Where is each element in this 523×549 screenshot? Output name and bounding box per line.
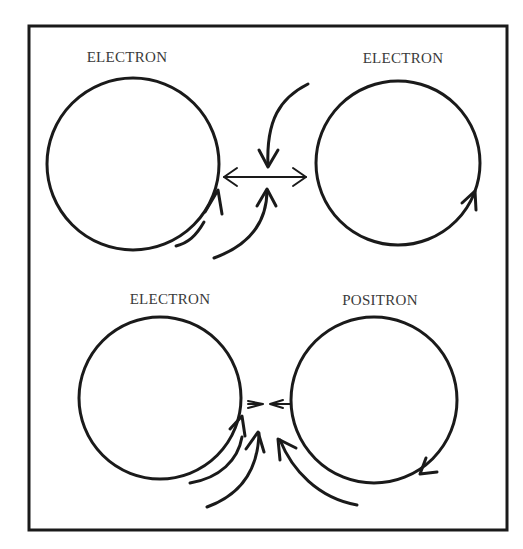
bottom-panel: ELECTRON POSITRON xyxy=(79,291,457,507)
positron-orbit-bottom-right xyxy=(291,317,457,483)
electron-orbit-top-left xyxy=(47,78,219,250)
label-bottom-right-positron: POSITRON xyxy=(342,292,418,308)
arrowhead-up-icon xyxy=(246,432,264,452)
top-panel: ELECTRON ELECTRON xyxy=(47,49,480,258)
label-bottom-left-electron: ELECTRON xyxy=(130,291,211,307)
label-top-right-electron: ELECTRON xyxy=(363,50,444,66)
spin-arrow-ccw-icon xyxy=(462,191,476,210)
incoming-field-arrow-top-icon xyxy=(268,84,308,166)
electron-orbit-top-right xyxy=(316,81,480,245)
field-line-top-left-icon xyxy=(176,222,204,246)
incoming-field-arrow-right-icon xyxy=(280,440,357,505)
electron-orbit-bottom-left xyxy=(79,317,241,479)
label-top-left-electron: ELECTRON xyxy=(87,49,168,65)
spin-arrow-cw-icon xyxy=(420,458,437,474)
field-line-bottom-left-icon xyxy=(190,437,242,483)
spin-interaction-diagram: ELECTRON ELECTRON ELECTRON POSITRON xyxy=(0,0,523,549)
